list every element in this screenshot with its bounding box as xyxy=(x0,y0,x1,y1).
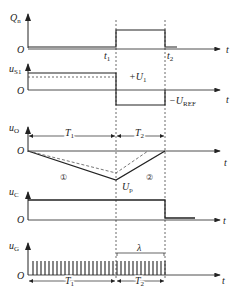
svg-text:①: ① xyxy=(60,173,67,182)
row-us1: uS1 O +U1 −UREF t xyxy=(9,63,229,108)
svg-text:t: t xyxy=(223,215,226,226)
svg-text:O: O xyxy=(17,44,24,55)
svg-text:T1: T1 xyxy=(65,127,75,140)
row-qn: Qn O t1 t2 t xyxy=(10,12,229,63)
svg-text:Up: Up xyxy=(122,181,133,194)
svg-text:t: t xyxy=(224,157,227,168)
svg-text:T2: T2 xyxy=(135,275,145,288)
svg-text:O: O xyxy=(17,85,24,96)
row-ug: λ T1 T2 uG O t xyxy=(9,240,225,288)
svg-text:+U1: +U1 xyxy=(129,71,147,84)
svg-text:O: O xyxy=(17,270,24,281)
timing-diagram: Qn O t1 t2 t uS1 O +U1 −UREF t T1 T2 uO … xyxy=(0,0,236,297)
svg-text:uS1: uS1 xyxy=(9,63,22,76)
svg-text:uC: uC xyxy=(9,186,19,199)
svg-text:Qn: Qn xyxy=(10,12,21,25)
svg-text:λ: λ xyxy=(136,242,142,253)
clock-pulses xyxy=(33,261,165,275)
svg-text:T1: T1 xyxy=(65,275,75,288)
svg-text:uG: uG xyxy=(9,240,19,253)
svg-text:t: t xyxy=(226,94,229,105)
row-uo: T1 T2 uO O ① ② Up t xyxy=(9,122,227,194)
svg-text:t1: t1 xyxy=(104,50,111,63)
svg-text:t: t xyxy=(222,275,225,286)
svg-text:O: O xyxy=(17,145,24,156)
row-uc: uC O t xyxy=(9,186,226,226)
svg-text:uO: uO xyxy=(9,122,19,135)
svg-text:t2: t2 xyxy=(167,50,174,63)
svg-text:−UREF: −UREF xyxy=(169,95,196,108)
svg-text:②: ② xyxy=(146,173,153,182)
svg-text:t: t xyxy=(226,44,229,55)
svg-text:T2: T2 xyxy=(135,127,145,140)
svg-text:O: O xyxy=(17,214,24,225)
